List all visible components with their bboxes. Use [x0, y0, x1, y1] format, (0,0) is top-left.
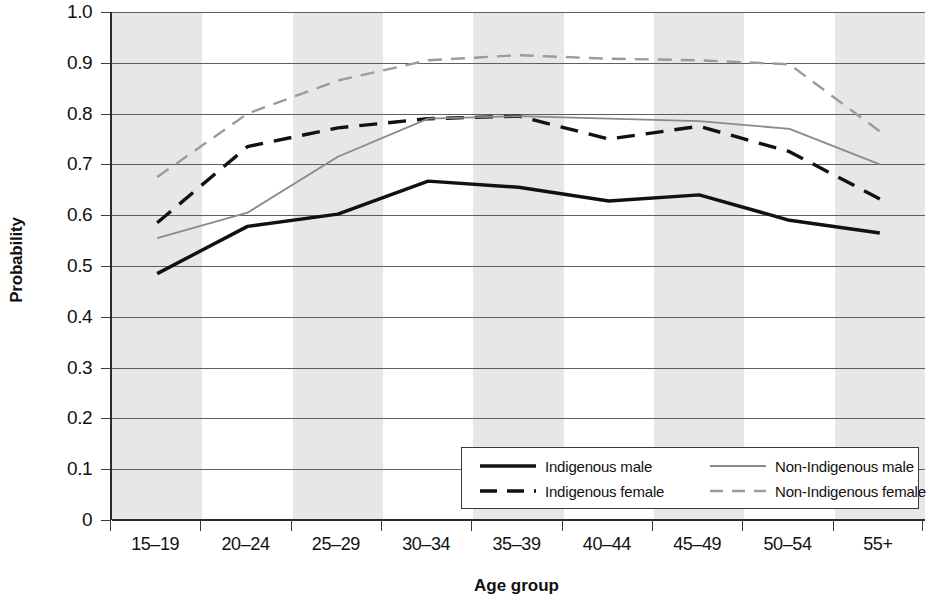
y-tick-label: 0.1 — [44, 458, 92, 480]
x-tick-label: 50–54 — [763, 534, 811, 555]
legend-swatch — [480, 484, 536, 498]
series-line — [157, 116, 880, 223]
x-tick-mark — [922, 520, 923, 531]
x-tick-label: 25–29 — [312, 534, 360, 555]
x-tick-mark — [652, 520, 653, 531]
legend-item[interactable]: Indigenous male — [480, 454, 652, 478]
legend-label: Indigenous male — [545, 458, 652, 475]
y-tick-label: 0 — [44, 509, 92, 531]
x-axis-tick-marks — [110, 520, 923, 532]
x-tick-mark — [110, 520, 111, 531]
legend-label: Non-Indigenous male — [775, 458, 914, 475]
y-tick-mark — [101, 469, 111, 470]
x-tick-mark — [200, 520, 201, 531]
y-tick-mark — [101, 317, 111, 318]
y-tick-mark — [101, 520, 111, 521]
legend-swatch — [710, 484, 766, 498]
y-tick-label: 1.0 — [44, 1, 92, 23]
x-tick-mark — [742, 520, 743, 531]
y-tick-mark — [101, 266, 111, 267]
y-tick-label: 0.3 — [44, 357, 92, 379]
legend-label: Non-Indigenous female — [775, 483, 926, 500]
y-tick-label: 0.7 — [44, 153, 92, 175]
series-layer — [112, 12, 925, 520]
y-tick-mark — [101, 368, 111, 369]
x-tick-label: 45–49 — [673, 534, 721, 555]
x-tick-mark — [291, 520, 292, 531]
series-svg — [112, 12, 925, 520]
x-tick-label: 30–34 — [402, 534, 450, 555]
legend-item[interactable]: Non-Indigenous male — [710, 454, 914, 478]
y-tick-mark — [101, 12, 111, 13]
x-tick-label: 55+ — [863, 534, 892, 555]
x-axis-tick-labels: 15–1920–2425–2930–3435–3940–4445–4950–54… — [110, 534, 923, 562]
x-tick-label: 35–39 — [492, 534, 540, 555]
y-tick-mark — [101, 164, 111, 165]
y-tick-label: 0.4 — [44, 306, 92, 328]
y-tick-label: 0.8 — [44, 103, 92, 125]
y-axis-title: Probability — [0, 0, 34, 520]
x-tick-mark — [381, 520, 382, 531]
legend-swatch — [710, 459, 766, 473]
x-tick-mark — [471, 520, 472, 531]
legend-item[interactable]: Non-Indigenous female — [710, 479, 926, 503]
x-tick-label: 15–19 — [131, 534, 179, 555]
plot-area — [110, 12, 925, 520]
x-tick-label: 20–24 — [221, 534, 269, 555]
y-tick-label: 0.5 — [44, 255, 92, 277]
y-tick-label: 0.6 — [44, 204, 92, 226]
chart-legend: Indigenous maleNon-Indigenous maleIndige… — [461, 447, 919, 509]
y-tick-mark — [101, 418, 111, 419]
legend-swatch — [480, 459, 536, 473]
y-axis-tick-labels: 1.00.90.80.70.60.50.40.30.20.10 — [36, 0, 92, 540]
y-tick-mark — [101, 114, 111, 115]
legend-label: Indigenous female — [545, 483, 664, 500]
x-tick-mark — [562, 520, 563, 531]
y-tick-mark — [101, 63, 111, 64]
y-tick-mark — [101, 215, 111, 216]
y-axis-title-text: Probability — [7, 217, 27, 303]
x-axis-title: Age group — [110, 576, 923, 596]
y-tick-label: 0.2 — [44, 407, 92, 429]
x-tick-label: 40–44 — [583, 534, 631, 555]
y-tick-label: 0.9 — [44, 52, 92, 74]
legend-item[interactable]: Indigenous female — [480, 479, 664, 503]
series-line — [157, 181, 880, 273]
series-line — [157, 116, 880, 238]
x-tick-mark — [833, 520, 834, 531]
